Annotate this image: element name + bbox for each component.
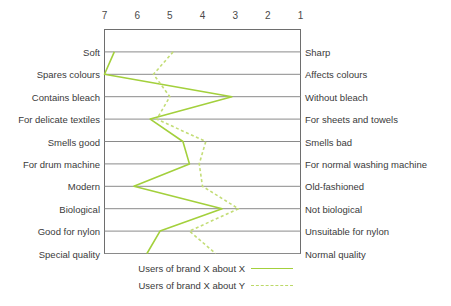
axis-tick-2: 2 [258, 10, 278, 21]
left-attribute-label: Special quality [39, 248, 100, 259]
left-attribute-label: Modern [68, 181, 100, 192]
legend-item-1: Users of brand X about Y [85, 280, 293, 291]
axis-tick-5: 5 [160, 10, 180, 21]
left-attribute-label: Good for nylon [38, 226, 100, 237]
legend-swatch-dashed [251, 285, 293, 286]
axis-tick-3: 3 [225, 10, 245, 21]
right-attribute-label: Old-fashioned [305, 181, 364, 192]
legend-label: Users of brand X about Y [85, 280, 245, 291]
right-attribute-label: Affects colours [305, 69, 367, 80]
axis-tick-1: 1 [291, 10, 311, 21]
right-attribute-label: Normal quality [305, 248, 366, 259]
chart-canvas [0, 0, 451, 306]
right-attribute-label: For normal washing machine [305, 158, 427, 169]
legend-label: Users of brand X about X [85, 263, 245, 274]
right-attribute-label: Unsuitable for nylon [305, 226, 389, 237]
legend-swatch-solid [251, 268, 293, 269]
left-attribute-label: For drum machine [23, 158, 100, 169]
left-attribute-label: Soft [83, 46, 100, 57]
axis-tick-6: 6 [127, 10, 147, 21]
left-attribute-label: For delicate textiles [18, 114, 100, 125]
left-attribute-label: Contains bleach [32, 91, 100, 102]
left-attribute-label: Smells good [48, 136, 100, 147]
right-attribute-label: Smells bad [305, 136, 352, 147]
left-attribute-label: Spares colours [37, 69, 100, 80]
right-attribute-label: Without bleach [305, 91, 368, 102]
semantic-differential-chart: 7654321 SoftSpares coloursContains bleac… [0, 0, 451, 306]
right-attribute-label: Sharp [305, 46, 330, 57]
legend-item-0: Users of brand X about X [85, 263, 293, 274]
axis-tick-4: 4 [193, 10, 213, 21]
left-attribute-label: Biological [59, 203, 100, 214]
axis-tick-7: 7 [95, 10, 115, 21]
right-attribute-label: For sheets and towels [305, 114, 398, 125]
right-attribute-label: Not biological [305, 203, 362, 214]
